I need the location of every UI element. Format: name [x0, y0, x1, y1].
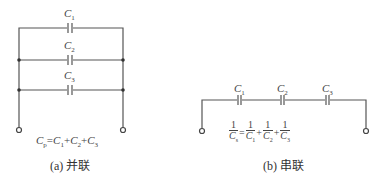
- caption-parallel: (a) 并联: [50, 156, 90, 174]
- capacitor-c1-parallel: [68, 23, 72, 33]
- fraction-c3: 1C3: [280, 120, 290, 145]
- junction-dot: [17, 58, 21, 62]
- label-c2-series: C2: [277, 83, 288, 99]
- series-formula: 1Cs=1C1+1C2+1C3: [228, 120, 291, 145]
- capacitor-c2-parallel: [68, 55, 72, 65]
- label-c1-series: C1: [234, 83, 245, 99]
- terminal-right-series: [364, 129, 369, 134]
- junction-dot: [121, 58, 125, 62]
- parallel-formula: Cp=C1+C2+C3: [36, 134, 98, 149]
- capacitor-c3-parallel: [68, 85, 72, 95]
- junction-dot: [17, 88, 21, 92]
- fraction-lhs: 1Cs: [229, 120, 238, 145]
- fraction-c1: 1C1: [246, 120, 256, 145]
- label-c2-parallel: C2: [64, 40, 75, 56]
- junction-dot: [121, 88, 125, 92]
- caption-series: (b) 串联: [263, 156, 304, 174]
- terminal-left-series: [200, 129, 205, 134]
- fraction-c2: 1C2: [263, 120, 273, 145]
- terminal-left-parallel: [17, 128, 22, 133]
- label-c1-parallel: C1: [64, 8, 75, 24]
- label-c3-parallel: C3: [64, 70, 75, 86]
- terminal-right-parallel: [121, 128, 126, 133]
- label-c3-series: C3: [322, 83, 333, 99]
